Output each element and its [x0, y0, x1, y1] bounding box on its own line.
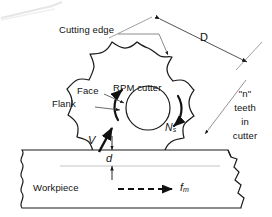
depth-label: d [106, 153, 112, 164]
diameter-label: D [200, 32, 208, 43]
rotation-speed-label: Ns [165, 122, 176, 136]
teeth-label-line4: cutter [221, 131, 269, 142]
teeth-label-line1: "n" [221, 89, 269, 100]
cutting-edge-label: Cutting edge [59, 25, 114, 36]
feed-subscript: m [183, 186, 189, 193]
workpiece-label: Workpiece [33, 183, 79, 194]
face-label: Face [77, 86, 99, 97]
rpm-cutter-label: RPM cutter [113, 83, 162, 94]
velocity-label: V [88, 135, 95, 146]
teeth-label-line2: teeth [221, 103, 269, 114]
figure-canvas: Cutting edge Face Flank RPM cutter D Ns … [0, 0, 272, 217]
teeth-label-line3: in [221, 117, 269, 128]
rotation-speed-symbol: N [165, 121, 173, 133]
milling-cutter-body [67, 42, 194, 164]
feed-label: fm [180, 182, 189, 196]
flank-label: Flank [52, 99, 76, 110]
rotation-speed-subscript: s [173, 126, 177, 133]
scan-artifact-line [1, 2, 62, 20]
workpiece-body [21, 150, 244, 208]
